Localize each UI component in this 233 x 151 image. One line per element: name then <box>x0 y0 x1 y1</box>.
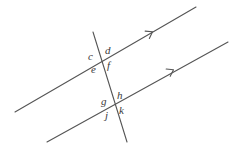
angle-label-c: c <box>88 51 93 62</box>
angle-label-h: h <box>117 90 123 101</box>
angle-label-j: j <box>105 110 108 121</box>
geometry-figure: c d e f g h j k <box>0 0 233 151</box>
angle-label-k: k <box>119 105 124 116</box>
angle-label-g: g <box>101 96 107 107</box>
geometry-canvas <box>0 0 233 151</box>
lower-parallel-line <box>47 42 228 142</box>
angle-label-d: d <box>105 45 111 56</box>
angle-label-f: f <box>107 60 110 71</box>
angle-label-e: e <box>91 64 96 75</box>
